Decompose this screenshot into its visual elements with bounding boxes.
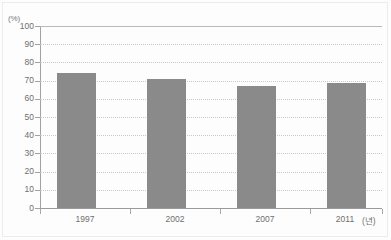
y-tick-label-20: 20 — [4, 167, 34, 176]
y-tick-label-60: 60 — [4, 94, 34, 103]
bar-1997 — [57, 73, 96, 208]
y-tick-label-30: 30 — [4, 149, 34, 158]
bar-chart: (%) 100 90 80 70 60 50 40 30 20 10 0 — [0, 0, 391, 240]
bar-2011 — [327, 83, 366, 208]
x-axis-unit-label: (년) — [362, 214, 376, 226]
bar-2007 — [237, 86, 276, 208]
y-tick-label-70: 70 — [4, 76, 34, 85]
gridline-90 — [40, 44, 382, 45]
x-tick-label-2007: 2007 — [235, 214, 295, 224]
y-tick-label-10: 10 — [4, 185, 34, 194]
y-tick-label-40: 40 — [4, 131, 34, 140]
x-tick-mark-1 — [130, 209, 131, 214]
bar-2002 — [147, 79, 186, 208]
plot-area — [40, 26, 382, 208]
x-tick-mark-end — [382, 209, 383, 214]
x-tick-label-1997: 1997 — [55, 214, 115, 224]
y-tick-label-50: 50 — [4, 113, 34, 122]
x-tick-label-2002: 2002 — [145, 214, 205, 224]
y-tick-label-100: 100 — [4, 22, 34, 31]
gridline-100 — [40, 26, 382, 27]
chart-screenshot: (%) 100 90 80 70 60 50 40 30 20 10 0 — [0, 0, 391, 240]
x-tick-mark-start — [40, 209, 41, 214]
x-tick-mark-2 — [220, 209, 221, 214]
y-tick-label-0: 0 — [4, 204, 34, 213]
y-axis-tick-labels: 100 90 80 70 60 50 40 30 20 10 0 — [0, 0, 34, 240]
y-tick-label-80: 80 — [4, 58, 34, 67]
gridline-80 — [40, 62, 382, 63]
x-axis-line — [40, 208, 382, 209]
y-tick-label-90: 90 — [4, 40, 34, 49]
x-tick-mark-3 — [310, 209, 311, 214]
